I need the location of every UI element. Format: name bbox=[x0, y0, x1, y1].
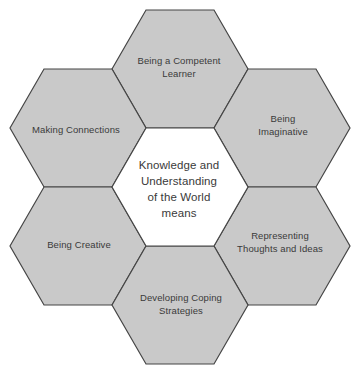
hexagon-being-imaginative-label: Being Imaginative bbox=[218, 112, 348, 138]
hexagon-being-a-competent-learner-label: Being a Competent Learner bbox=[114, 54, 244, 80]
knowledge-world-hexagon-diagram: Being a Competent Learner Making Connect… bbox=[0, 0, 359, 375]
hexagon-being-creative-label: Being Creative bbox=[14, 238, 144, 251]
hexagon-developing-coping-strategies-label: Developing Coping Strategies bbox=[116, 291, 246, 317]
hexagon-representing-thoughts-and-ideas-label: Representing Thoughts and Ideas bbox=[215, 229, 345, 255]
hexagon-making-connections-label: Making Connections bbox=[11, 123, 141, 136]
hexagon-center-knowledge-label: Knowledge and Understanding of the World… bbox=[114, 157, 244, 221]
